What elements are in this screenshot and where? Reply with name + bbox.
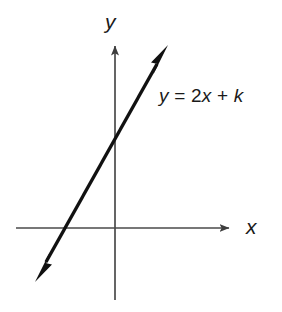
- y-axis-label: y: [105, 11, 116, 32]
- equation-constant: k: [234, 85, 244, 106]
- x-axis-label: x: [246, 216, 257, 237]
- equation-equals: =: [174, 85, 185, 106]
- equation-lhs: y: [159, 85, 169, 106]
- equation-coefficient: 2: [191, 85, 202, 106]
- equation-x-variable: x: [202, 85, 212, 106]
- plotted-line-group: [35, 45, 168, 282]
- graph-svg: [0, 0, 282, 312]
- line-shaft: [46, 64, 157, 262]
- figure-canvas: y x y = 2x + k: [0, 0, 282, 312]
- equation-annotation: y = 2x + k: [159, 86, 243, 105]
- equation-plus: +: [217, 85, 228, 106]
